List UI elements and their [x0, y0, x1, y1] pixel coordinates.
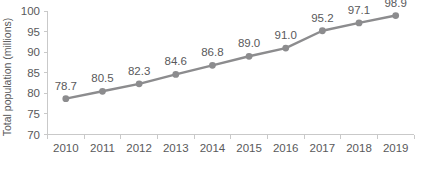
- series-line-total-population: [66, 16, 396, 99]
- y-tick-label: 70: [27, 129, 40, 141]
- data-point-label: 89.0: [238, 37, 260, 49]
- data-point-label: 98.9: [384, 0, 406, 9]
- series-point-labels: 78.780.582.384.686.889.091.095.297.198.9: [55, 0, 407, 92]
- data-point-label: 84.6: [165, 55, 187, 67]
- data-point-marker: [172, 71, 179, 78]
- data-point-label: 86.8: [201, 46, 223, 58]
- x-tick-label: 2018: [346, 142, 372, 154]
- x-tick-label: 2012: [126, 142, 152, 154]
- y-tick-label: 75: [27, 108, 40, 120]
- x-axis-ticks: [48, 135, 415, 140]
- y-axis-title-text: Total population (millions): [1, 18, 13, 136]
- data-point-label: 82.3: [128, 65, 150, 77]
- data-point-marker: [392, 12, 399, 19]
- x-tick-label: 2016: [273, 142, 299, 154]
- data-point-label: 91.0: [275, 29, 297, 41]
- x-tick-label: 2013: [163, 142, 189, 154]
- x-tick-label: 2010: [53, 142, 79, 154]
- data-point-label: 78.7: [55, 80, 77, 92]
- data-point-marker: [209, 62, 216, 69]
- data-point-label: 95.2: [311, 12, 333, 24]
- y-tick-label: 80: [27, 87, 40, 99]
- x-tick-label: 2015: [236, 142, 262, 154]
- x-tick-label: 2019: [383, 142, 409, 154]
- y-tick-label: 85: [27, 67, 40, 79]
- y-axis-title: Total population (millions): [1, 18, 13, 136]
- data-point-marker: [246, 53, 253, 60]
- data-point-marker: [356, 20, 363, 27]
- x-tick-label: 2014: [200, 142, 226, 154]
- x-axis-tick-labels: 2010201120122013201420152016201720182019: [53, 142, 408, 154]
- data-point-marker: [62, 95, 69, 102]
- data-point-marker: [136, 80, 143, 87]
- x-tick-label: 2017: [310, 142, 336, 154]
- data-point-marker: [282, 45, 289, 52]
- data-point-label: 80.5: [91, 72, 113, 84]
- x-tick-label: 2011: [90, 142, 115, 154]
- y-tick-label: 100: [21, 5, 40, 17]
- data-point-label: 97.1: [348, 4, 370, 16]
- y-tick-label: 90: [27, 46, 40, 58]
- population-line-chart: Total population (millions) 707580859095…: [0, 0, 421, 170]
- data-point-marker: [99, 88, 106, 95]
- y-axis-ticks: 707580859095100: [21, 5, 48, 141]
- y-tick-label: 95: [27, 26, 40, 38]
- data-point-marker: [319, 27, 326, 34]
- chart-container: Total population (millions) 707580859095…: [0, 0, 421, 170]
